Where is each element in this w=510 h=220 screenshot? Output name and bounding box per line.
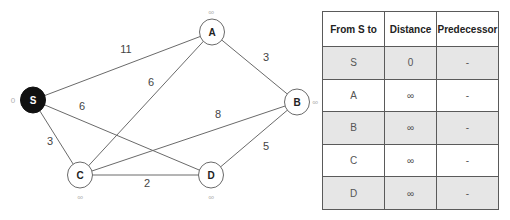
- edge-a-b: [212, 32, 297, 102]
- node-label: S: [30, 95, 37, 106]
- cell-predecessor: -: [437, 79, 499, 112]
- table-row: B ∞ -: [323, 112, 499, 145]
- cell-node: C: [323, 144, 385, 177]
- edge-d-b: [211, 102, 297, 175]
- node-b: B∞: [285, 89, 319, 115]
- table-header-row: From S to Distance Predecessor: [323, 12, 499, 47]
- edge-weight-label: 11: [120, 43, 131, 55]
- header-from-s-to: From S to: [323, 12, 385, 47]
- edge-weight-label: 3: [263, 51, 269, 63]
- node-c: C∞: [68, 162, 93, 202]
- node-d: D∞: [199, 162, 224, 202]
- node-a: A∞: [200, 8, 225, 46]
- node-label: D: [207, 170, 214, 181]
- cell-predecessor: -: [437, 144, 499, 177]
- edge-c-b: [80, 102, 297, 175]
- cell-distance: ∞: [385, 144, 437, 177]
- table-row: D ∞ -: [323, 177, 499, 210]
- header-distance: Distance: [385, 12, 437, 47]
- cell-distance: ∞: [385, 177, 437, 210]
- cell-distance: ∞: [385, 79, 437, 112]
- distance-table: From S to Distance Predecessor S 0 - A ∞…: [322, 11, 499, 210]
- cell-predecessor: -: [437, 47, 499, 80]
- node-distance-label: 0: [11, 96, 16, 105]
- edge-s-d: [33, 100, 211, 175]
- node-distance-label: ∞: [208, 193, 214, 202]
- cell-distance: 0: [385, 47, 437, 80]
- node-s: S0: [11, 87, 46, 113]
- edge-weight-label: 3: [47, 135, 53, 147]
- weighted-graph: 116368235 S0A∞B∞C∞D∞: [0, 0, 320, 220]
- edge-weight-label: 2: [144, 177, 150, 189]
- edge-weight-label: 8: [215, 108, 221, 120]
- node-distance-label: ∞: [208, 8, 214, 17]
- cell-predecessor: -: [437, 177, 499, 210]
- cell-node: S: [323, 47, 385, 80]
- cell-predecessor: -: [437, 112, 499, 145]
- edge-weight-label: 6: [79, 100, 85, 112]
- cell-distance: ∞: [385, 112, 437, 145]
- distance-table-container: From S to Distance Predecessor S 0 - A ∞…: [322, 11, 499, 210]
- header-predecessor: Predecessor: [437, 12, 499, 47]
- edge-weight-label: 6: [148, 76, 154, 88]
- node-distance-label: ∞: [77, 193, 83, 202]
- node-label: C: [76, 170, 83, 181]
- table-row: S 0 -: [323, 47, 499, 80]
- cell-node: D: [323, 177, 385, 210]
- node-label: B: [293, 97, 300, 108]
- cell-node: B: [323, 112, 385, 145]
- table-row: A ∞ -: [323, 79, 499, 112]
- table-row: C ∞ -: [323, 144, 499, 177]
- edge-weight-label: 5: [263, 140, 269, 152]
- cell-node: A: [323, 79, 385, 112]
- node-label: A: [208, 27, 215, 38]
- nodes: S0A∞B∞C∞D∞: [11, 8, 318, 202]
- edges: [33, 32, 297, 175]
- edge-c-a: [80, 32, 212, 175]
- node-distance-label: ∞: [312, 98, 318, 107]
